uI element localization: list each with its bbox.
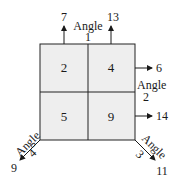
cell-bottom-left: 5 — [61, 109, 68, 124]
bottom-right-output: 11 — [156, 164, 168, 178]
top-right-output: 13 — [107, 10, 119, 24]
angle-4-label: Angle — [12, 128, 43, 159]
angle-diagram: 2 4 5 9 7 13 Angle 1 6 14 Angle 2 9 Angl… — [0, 0, 178, 188]
cell-top-right: 4 — [108, 60, 115, 75]
cell-bottom-right: 9 — [108, 109, 115, 124]
cell-top-left: 2 — [61, 60, 68, 75]
angle-1-number: 1 — [85, 30, 91, 44]
angle-2-label: Angle — [137, 78, 166, 92]
right-bottom-output: 14 — [156, 109, 168, 123]
angle-2-number: 2 — [143, 90, 149, 104]
bottom-left-output: 9 — [11, 161, 17, 175]
top-left-output: 7 — [61, 10, 67, 24]
right-top-output: 6 — [156, 61, 162, 75]
angle-3-number: 3 — [133, 147, 147, 161]
